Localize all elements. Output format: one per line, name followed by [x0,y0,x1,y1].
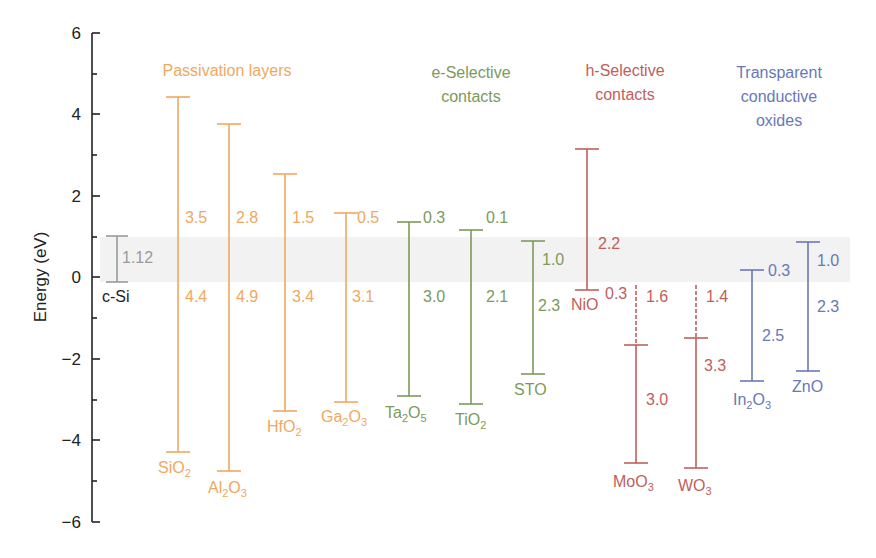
svg-text:0.3: 0.3 [423,209,445,226]
group-title-tco-3: oxides [756,112,802,129]
csi-gap-label: 1.12 [122,249,153,266]
svg-text:1.0: 1.0 [817,252,839,269]
y-tick-neg2: −2 [62,350,81,369]
svg-text:SiO2: SiO2 [158,459,191,479]
y-tick-0: 0 [72,268,81,287]
svg-text:In2O3: In2O3 [733,391,771,411]
svg-text:4.4: 4.4 [185,288,207,305]
chart-svg: 6 4 2 0 −2 −4 −6 Energy (eV) Passivation… [0,0,876,558]
svg-text:3.5: 3.5 [185,209,207,226]
group-title-esel-1: e-Selective [431,64,510,81]
svg-text:ZnO: ZnO [792,378,823,395]
group-title-tco-1: Transparent [736,64,822,81]
csi-name: c-Si [102,288,130,305]
svg-text:1.0: 1.0 [542,251,564,268]
group-title-esel-2: contacts [441,88,501,105]
svg-text:1.6: 1.6 [646,288,668,305]
group-title-hsel-1: h-Selective [585,62,664,79]
svg-text:Ta2O5: Ta2O5 [385,404,427,424]
y-tick-2: 2 [72,187,81,206]
y-axis-label: Energy (eV) [31,232,50,323]
svg-text:TiO2: TiO2 [455,411,486,431]
y-tick-6: 6 [72,24,81,43]
y-tick-neg6: −6 [62,513,81,532]
svg-text:0.3: 0.3 [768,262,790,279]
svg-text:Ga2O3: Ga2O3 [321,408,367,428]
svg-text:2.3: 2.3 [817,298,839,315]
svg-text:2.8: 2.8 [236,209,258,226]
svg-text:2.1: 2.1 [486,288,508,305]
y-tick-4: 4 [72,105,81,124]
y-tick-neg4: −4 [62,431,81,450]
svg-text:2.2: 2.2 [598,235,620,252]
svg-text:0.3: 0.3 [605,285,627,302]
svg-text:NiO: NiO [571,296,599,313]
y-axis [92,33,100,522]
svg-text:1.5: 1.5 [292,209,314,226]
svg-text:0.1: 0.1 [486,209,508,226]
svg-text:HfO2: HfO2 [267,418,302,438]
svg-text:3.0: 3.0 [423,288,445,305]
svg-text:MoO3: MoO3 [613,473,654,493]
y-tick-labels: 6 4 2 0 −2 −4 −6 [62,24,81,532]
svg-text:4.9: 4.9 [236,288,258,305]
csi-gap-band [100,237,850,282]
svg-text:3.3: 3.3 [704,357,726,374]
svg-text:0.5: 0.5 [357,209,379,226]
svg-text:2.3: 2.3 [538,297,560,314]
group-title-passivation: Passivation layers [163,62,292,79]
svg-text:3.4: 3.4 [292,288,314,305]
svg-text:1.4: 1.4 [706,288,728,305]
svg-text:Al2O3: Al2O3 [208,479,247,499]
svg-text:3.1: 3.1 [352,288,374,305]
group-titles: Passivation layers e-Selective contacts … [163,62,823,129]
svg-text:2.5: 2.5 [762,327,784,344]
group-title-hsel-2: contacts [595,86,655,103]
group-title-tco-2: conductive [741,88,818,105]
svg-text:WO3: WO3 [678,477,712,497]
band-alignment-chart: 6 4 2 0 −2 −4 −6 Energy (eV) Passivation… [0,0,876,558]
svg-text:3.0: 3.0 [646,391,668,408]
svg-text:STO: STO [514,381,547,398]
